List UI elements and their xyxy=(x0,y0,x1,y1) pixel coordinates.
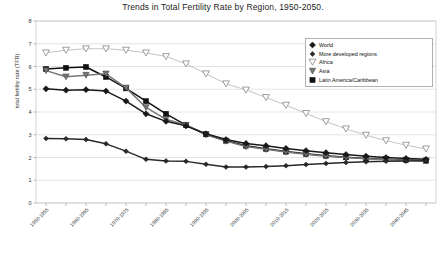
data-point-marker xyxy=(84,137,89,142)
data-point-marker xyxy=(303,110,310,116)
x-tick-label: 1960-1965 xyxy=(69,206,90,227)
data-point-marker xyxy=(423,146,430,152)
y-tick-label: 5 xyxy=(28,86,31,92)
data-point-marker xyxy=(64,136,69,141)
x-tick-label: 2020-2025 xyxy=(309,206,330,227)
legend-label: Africa xyxy=(319,59,333,65)
data-point-marker xyxy=(283,102,290,108)
data-point-marker xyxy=(163,54,170,60)
data-point-marker xyxy=(63,87,69,93)
x-tick-label: 1970-1975 xyxy=(109,206,130,227)
data-point-marker xyxy=(163,111,168,116)
data-point-marker xyxy=(124,149,129,154)
data-point-marker xyxy=(104,141,109,146)
open-triangle-down-icon xyxy=(308,58,317,66)
legend-label: Asia xyxy=(319,68,330,74)
data-point-marker xyxy=(164,158,169,163)
legend-label: More developed regions xyxy=(319,51,377,57)
data-point-marker xyxy=(244,165,249,170)
legend-label: Latin America/Caribbean xyxy=(319,77,378,83)
x-tick-label: 2010-2015 xyxy=(269,206,290,227)
data-point-marker xyxy=(310,77,315,82)
y-tick-label: 1 xyxy=(28,177,31,183)
data-point-marker xyxy=(83,64,88,69)
y-tick-label: 8 xyxy=(28,18,31,24)
legend-item-latin-america-caribbean: Latin America/Caribbean xyxy=(308,75,429,84)
data-point-marker xyxy=(309,60,316,66)
series-world xyxy=(43,86,429,163)
data-point-marker xyxy=(143,105,149,111)
filled-triangle-down-icon xyxy=(308,67,317,75)
legend-item-africa: Africa xyxy=(308,58,429,67)
y-tick-label: 0 xyxy=(28,200,31,206)
data-point-marker xyxy=(143,98,148,103)
data-point-marker xyxy=(223,81,230,87)
fertility-rate-chart: Trends in Total Fertility Rate by Region… xyxy=(0,0,446,260)
data-point-marker xyxy=(204,162,209,167)
filled-diamond-small-icon xyxy=(308,50,317,58)
x-tick-label: 1990-1995 xyxy=(189,206,210,227)
x-tick-label: 1950-1955 xyxy=(29,206,50,227)
data-point-marker xyxy=(343,126,350,132)
data-point-marker xyxy=(309,42,315,48)
data-point-marker xyxy=(183,61,190,67)
data-point-marker xyxy=(83,87,89,93)
data-point-marker xyxy=(43,86,49,92)
data-point-marker xyxy=(44,136,49,141)
data-point-marker xyxy=(264,164,269,169)
data-point-marker xyxy=(263,95,270,101)
y-tick-label: 6 xyxy=(28,64,31,70)
y-tick-label: 7 xyxy=(28,41,31,47)
data-point-marker xyxy=(103,88,109,94)
x-tick-label: 2040-2045 xyxy=(389,206,410,227)
x-tick-label: 1980-1985 xyxy=(149,206,170,227)
data-point-marker xyxy=(224,165,229,170)
data-point-marker xyxy=(309,68,315,74)
chart-legend: World More developed regions Africa Asia… xyxy=(305,38,433,87)
data-point-marker xyxy=(203,71,210,77)
data-point-marker xyxy=(63,65,68,70)
y-tick-label: 2 xyxy=(28,155,31,161)
y-tick-label: 4 xyxy=(28,109,31,115)
data-point-marker xyxy=(324,161,329,166)
legend-item-more-developed-regions: More developed regions xyxy=(308,50,429,59)
x-tick-label: 2000-2005 xyxy=(229,206,250,227)
data-point-marker xyxy=(184,159,189,164)
filled-square-icon xyxy=(308,76,317,84)
legend-label: World xyxy=(319,42,333,48)
data-point-marker xyxy=(243,87,250,93)
legend-item-world: World xyxy=(308,41,429,50)
y-tick-label: 3 xyxy=(28,132,31,138)
filled-diamond-icon xyxy=(308,41,317,49)
data-point-marker xyxy=(344,160,349,165)
data-point-marker xyxy=(323,119,330,125)
series-line xyxy=(46,89,426,160)
x-tick-label: 2030-2035 xyxy=(349,206,370,227)
data-point-marker xyxy=(284,163,289,168)
data-point-marker xyxy=(310,51,315,56)
data-point-marker xyxy=(304,162,309,167)
legend-item-asia: Asia xyxy=(308,67,429,76)
